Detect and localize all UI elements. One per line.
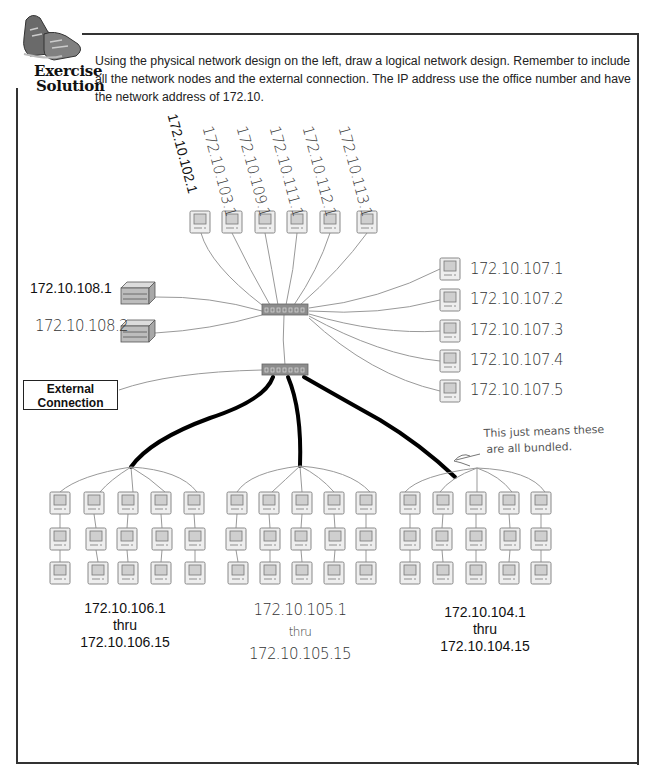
group-105-start: 172.10.105.1 (230, 599, 370, 621)
right-node-ip-4: 172.10.107.4 (470, 351, 563, 369)
group-105-label: 172.10.105.1 thru 172.10.105.15 (230, 599, 370, 665)
external-line-2: Connection (24, 396, 117, 410)
group-106-computers (50, 492, 205, 584)
group-106-thru: thru (60, 617, 190, 634)
right-node-ip-2: 172.10.107.2 (470, 290, 563, 308)
external-line-1: External (24, 382, 117, 396)
group-104-end: 172.10.104.15 (420, 638, 550, 655)
group-106-start: 172.10.106.1 (60, 600, 190, 617)
group-105-thru: thru (230, 621, 370, 643)
server-ip-2: 172.10.108.2 (35, 317, 128, 335)
group-104-start: 172.10.104.1 (420, 604, 550, 621)
right-node-ip-3: 172.10.107.3 (470, 321, 563, 339)
server-ip-1: 172.10.108.1 (30, 280, 112, 296)
group-105-end: 172.10.105.15 (230, 643, 370, 665)
group-106-label: 172.10.106.1 thru 172.10.106.15 (60, 600, 190, 651)
group-104-thru: thru (420, 621, 550, 638)
group-106-end: 172.10.106.15 (60, 634, 190, 651)
bundled-annotation: This just means these are all bundled. (483, 422, 605, 458)
external-connection-box: External Connection (23, 380, 118, 410)
right-node-ip-1: 172.10.107.1 (470, 260, 563, 278)
group-104-label: 172.10.104.1 thru 172.10.104.15 (420, 604, 550, 655)
right-node-ip-5: 172.10.107.5 (470, 381, 563, 399)
group-105-computers (226, 492, 376, 584)
group-104-computers (400, 492, 551, 584)
